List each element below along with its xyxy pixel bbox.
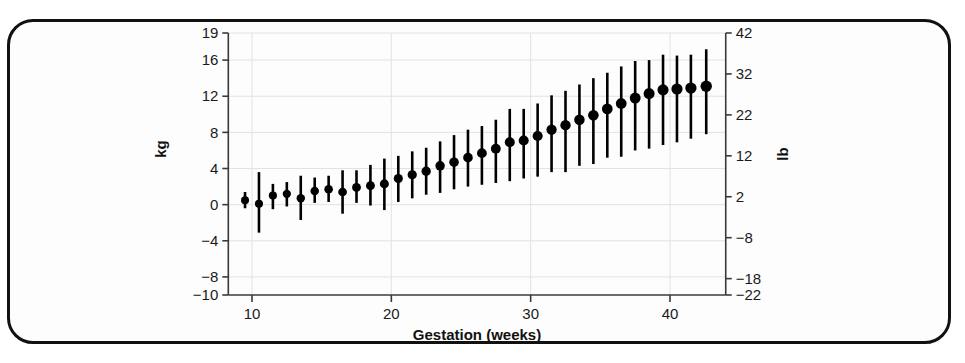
y-axis-left-tick-label: 0 — [210, 196, 218, 213]
data-points-group — [241, 81, 712, 208]
data-point — [630, 93, 641, 104]
data-point — [701, 81, 712, 92]
figure-container: −10−8−4048121619−22−18−82122232421020304… — [0, 0, 965, 363]
data-point — [588, 110, 599, 121]
data-point — [449, 157, 459, 167]
data-point — [366, 181, 375, 190]
data-point — [505, 137, 515, 147]
gridlines-group — [228, 33, 725, 295]
x-axis-title: Gestation (weeks) — [413, 326, 541, 343]
data-point — [241, 196, 249, 204]
data-point — [463, 153, 473, 163]
y-axis-right-tick-label: 22 — [736, 106, 753, 123]
chart-plot-area: −10−8−4048121619−22−18−82122232421020304… — [0, 0, 965, 363]
data-point — [352, 183, 361, 192]
y-axis-left-tick-label: −8 — [201, 268, 218, 285]
y-axis-right-tick-label: 2 — [736, 188, 744, 205]
y-axis-right-title: lb — [774, 147, 791, 160]
y-axis-left-tick-label: −10 — [193, 286, 218, 303]
x-axis-tick-label: 30 — [522, 305, 539, 322]
y-axis-left-tick-label: 12 — [202, 87, 219, 104]
data-point — [435, 161, 444, 170]
data-point — [380, 179, 389, 188]
data-point — [671, 83, 682, 94]
y-axis-left-tick-label: 19 — [202, 24, 219, 41]
data-point — [560, 120, 570, 130]
y-axis-right-tick-label: 12 — [736, 147, 753, 164]
data-point — [324, 185, 333, 194]
data-point — [519, 135, 529, 145]
weight-gain-scatter-chart: −10−8−4048121619−22−18−82122232421020304… — [0, 0, 965, 363]
x-axis-tick-label: 10 — [244, 305, 261, 322]
y-axis-right-tick-label: −22 — [736, 286, 761, 303]
data-point — [574, 114, 584, 124]
data-point — [255, 200, 263, 208]
data-point — [602, 104, 613, 115]
data-point — [422, 167, 431, 176]
data-point — [408, 170, 417, 179]
data-point — [644, 88, 655, 99]
y-axis-left-tick-label: 8 — [210, 124, 218, 141]
y-axis-right-tick-label: 32 — [736, 65, 753, 82]
data-point — [546, 125, 556, 135]
y-axis-right-tick-label: 42 — [736, 24, 753, 41]
y-axis-left-title: kg — [152, 140, 169, 158]
axes-group — [222, 33, 731, 302]
data-point — [338, 188, 347, 197]
data-point — [616, 98, 627, 109]
data-point — [283, 190, 291, 198]
x-axis-tick-label: 20 — [383, 305, 400, 322]
y-axis-left-tick-label: −4 — [201, 232, 218, 249]
data-point — [310, 187, 319, 196]
data-point — [477, 148, 487, 158]
data-point — [491, 144, 501, 154]
y-axis-left-tick-label: 4 — [210, 160, 218, 177]
data-point — [269, 192, 277, 200]
data-point — [297, 194, 305, 202]
x-axis-tick-label: 40 — [662, 305, 679, 322]
data-point — [394, 174, 403, 183]
data-point — [533, 131, 543, 141]
y-axis-right-tick-label: −8 — [736, 229, 753, 246]
data-point — [685, 82, 696, 93]
y-axis-right-tick-label: −18 — [736, 270, 761, 287]
data-point — [657, 84, 668, 95]
y-axis-left-tick-label: 16 — [202, 51, 219, 68]
